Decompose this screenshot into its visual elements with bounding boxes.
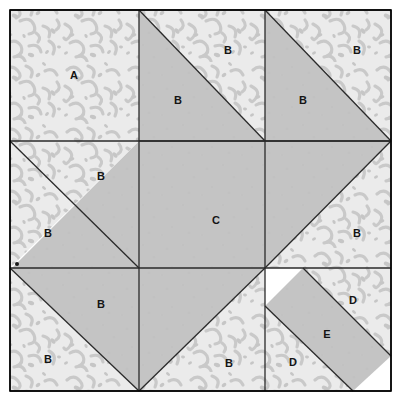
patch-label-b: B: [353, 44, 361, 56]
patch-label-b: B: [44, 227, 52, 239]
patch-label-e: E: [323, 328, 330, 340]
patch-label-b: B: [225, 357, 233, 369]
registration-dot: [15, 262, 19, 266]
quilt-block-diagram: ABBBBBBCBBBBDED: [0, 0, 401, 401]
patch-label-b: B: [44, 353, 52, 365]
patch-label-d: D: [349, 294, 357, 306]
patch-label-b: B: [174, 94, 182, 106]
patch-label-c: C: [212, 214, 220, 226]
patch-label-b: B: [299, 94, 307, 106]
quilt-block-canvas: ABBBBBBCBBBBDED: [0, 0, 401, 401]
patch-label-b: B: [353, 227, 361, 239]
patch-layer: [10, 10, 391, 391]
patch-label-b: B: [224, 44, 232, 56]
patch-label-a: A: [70, 69, 78, 81]
patch-label-b: B: [97, 298, 105, 310]
patch-label-b: B: [97, 170, 105, 182]
patch-label-d: D: [289, 356, 297, 368]
